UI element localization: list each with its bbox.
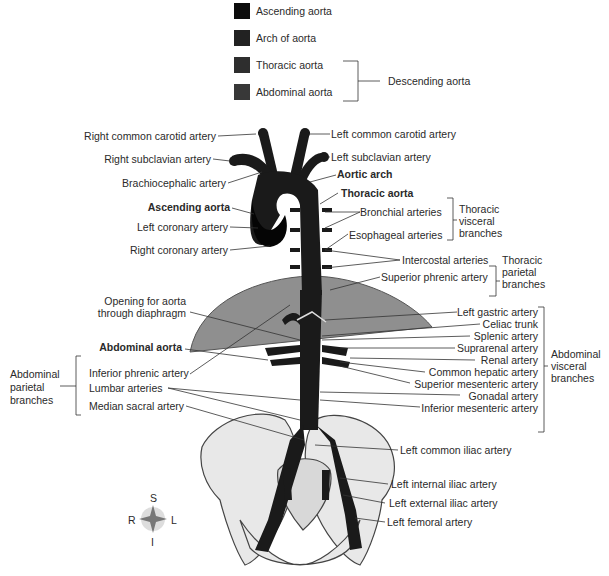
legend-label-arch: Arch of aorta — [256, 32, 316, 44]
group-thoracic-visceral-3: branches — [459, 227, 502, 239]
label-lumbar: Lumbar arteries — [89, 382, 163, 394]
compass-i: I — [151, 536, 154, 548]
label-common-hepatic: Common hepatic artery — [429, 366, 538, 378]
label-left-subclavian: Left subclavian artery — [331, 151, 431, 163]
compass-s: S — [150, 492, 157, 504]
label-left-coronary: Left coronary artery — [137, 221, 228, 233]
legend-swatch-arch — [234, 30, 250, 46]
legend-swatch-thoracic — [234, 57, 250, 73]
label-aortic-arch: Aortic arch — [337, 168, 392, 180]
label-inferior-mesenteric: Inferior mesenteric artery — [421, 402, 538, 414]
label-median-sacral: Median sacral artery — [89, 400, 184, 412]
label-left-common-carotid: Left common carotid artery — [331, 128, 456, 140]
label-left-internal-iliac: Left internal iliac artery — [391, 478, 497, 490]
label-abdominal-aorta: Abdominal aorta — [99, 341, 182, 353]
label-left-common-iliac: Left common iliac artery — [400, 444, 511, 456]
label-suprarenal: Suprarenal artery — [457, 342, 538, 354]
legend-group-descending: Descending aorta — [388, 75, 470, 87]
label-opening-line1: Opening for aorta — [104, 295, 186, 307]
group-thoracic-parietal-1: Thoracic — [502, 254, 542, 266]
compass-rose — [139, 505, 167, 533]
compass-l: L — [171, 514, 177, 526]
label-renal: Renal artery — [481, 354, 538, 366]
label-celiac-trunk: Celiac trunk — [483, 318, 538, 330]
label-gonadal: Gonadal artery — [469, 390, 538, 402]
label-esophageal: Esophageal arteries — [349, 229, 442, 241]
legend-swatch-abdominal — [234, 84, 250, 100]
label-right-common-carotid: Right common carotid artery — [84, 130, 216, 142]
group-abd-visceral-1: Abdominal — [551, 348, 601, 360]
label-superior-phrenic: Superior phrenic artery — [381, 271, 488, 283]
legend-label-thoracic: Thoracic aorta — [256, 59, 323, 71]
legend-label-ascending: Ascending aorta — [256, 5, 332, 17]
compass-r: R — [128, 514, 136, 526]
label-right-subclavian: Right subclavian artery — [104, 153, 211, 165]
label-superior-mesenteric: Superior mesenteric artery — [414, 378, 538, 390]
label-intercostal: Intercostal arteries — [402, 254, 488, 266]
group-thoracic-visceral-1: Thoracic — [459, 203, 499, 215]
legend-label-abdominal: Abdominal aorta — [256, 86, 332, 98]
label-thoracic-aorta: Thoracic aorta — [341, 187, 413, 199]
label-left-gastric: Left gastric artery — [457, 306, 538, 318]
group-abd-parietal-3: branches — [10, 394, 53, 406]
label-left-femoral: Left femoral artery — [387, 516, 472, 528]
legend-swatch-ascending — [234, 3, 250, 19]
label-left-external-iliac: Left external iliac artery — [389, 497, 498, 509]
group-abd-parietal-1: Abdominal — [10, 368, 60, 380]
label-brachiocephalic: Brachiocephalic artery — [122, 177, 226, 189]
label-splenic: Splenic artery — [474, 330, 538, 342]
group-thoracic-visceral-2: visceral — [459, 215, 495, 227]
group-abd-parietal-2: parietal — [10, 381, 44, 393]
group-thoracic-parietal-3: branches — [502, 278, 545, 290]
label-inferior-phrenic: Inferior phrenic artery — [89, 367, 189, 379]
group-abd-visceral-3: branches — [551, 372, 594, 384]
label-right-coronary: Right coronary artery — [130, 244, 228, 256]
label-bronchial: Bronchial arteries — [360, 206, 442, 218]
group-thoracic-parietal-2: parietal — [502, 266, 536, 278]
label-ascending-aorta: Ascending aorta — [148, 201, 230, 213]
label-opening-line2: through diaphragm — [98, 307, 186, 319]
group-abd-visceral-2: visceral — [551, 360, 587, 372]
